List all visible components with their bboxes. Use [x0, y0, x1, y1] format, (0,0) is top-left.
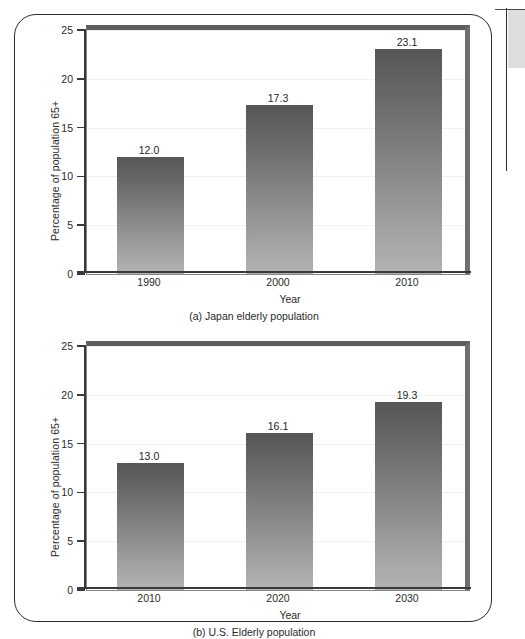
bar: [117, 157, 184, 274]
bar: [375, 402, 442, 590]
x-axis-title-b: Year: [51, 609, 525, 621]
y-axis-tick-mark: [77, 224, 85, 226]
bar: [117, 463, 184, 590]
y-axis-tick-label: 25: [33, 341, 73, 352]
x-axis-line-b: [77, 587, 471, 589]
x-axis-tick-label: 2000: [248, 277, 308, 288]
bar-value-label: 16.1: [248, 421, 308, 432]
y-axis-tick-mark: [77, 492, 85, 494]
y-axis-tick-mark: [77, 78, 85, 80]
bar: [375, 49, 442, 274]
x-axis-tick-label: 2030: [377, 593, 437, 604]
plot-frame-b: [86, 341, 470, 591]
y-axis-tick-mark: [77, 540, 85, 542]
y-axis-tick-mark: [77, 127, 85, 129]
bar: [246, 433, 313, 590]
page-edge-vertical-rule: [506, 8, 507, 171]
y-axis-tick-label: 20: [33, 74, 73, 85]
x-axis-tick-label: 2010: [377, 277, 437, 288]
bar-value-label: 17.3: [248, 93, 308, 104]
y-axis-line-a: [84, 29, 86, 271]
figure-card: 0510152025 Percentage of population 65+ …: [14, 14, 492, 622]
y-axis-tick-label: 20: [33, 390, 73, 401]
y-axis-tick-mark: [77, 29, 85, 31]
page-edge-grey-block: [508, 10, 525, 68]
y-axis-tick-mark: [77, 394, 85, 396]
y-axis-tick-label: 0: [33, 269, 73, 280]
y-axis-tick-mark: [77, 443, 85, 445]
plot-area-b: [87, 346, 465, 590]
y-axis-title-a: Percentage of population 65+: [49, 101, 61, 241]
gridline: [87, 30, 465, 31]
figure-us-elderly-population: 0510152025 Percentage of population 65+ …: [15, 323, 493, 623]
y-axis-tick-mark: [77, 589, 85, 591]
x-axis-tick-label: 2010: [119, 593, 179, 604]
y-axis-tick-mark: [77, 273, 85, 275]
x-axis-tick-label: 2020: [248, 593, 308, 604]
y-axis-tick-mark: [77, 176, 85, 178]
bar-value-label: 12.0: [119, 145, 179, 156]
bar-value-label: 23.1: [377, 37, 437, 48]
y-axis-tick-label: 25: [33, 25, 73, 36]
y-axis-tick-mark: [77, 345, 85, 347]
y-axis-title-b: Percentage of population 65+: [49, 417, 61, 557]
x-axis-title-a: Year: [51, 293, 525, 305]
figure-japan-elderly-population: 0510152025 Percentage of population 65+ …: [15, 15, 493, 323]
figure-caption-a: (a) Japan elderly population: [15, 310, 493, 322]
y-axis-line-b: [84, 345, 86, 587]
bar-value-label: 19.3: [377, 390, 437, 401]
x-axis-line-a: [77, 271, 471, 273]
gridline: [87, 346, 465, 347]
bar: [246, 105, 313, 274]
x-axis-tick-label: 1990: [119, 277, 179, 288]
y-axis-tick-label: 0: [33, 585, 73, 596]
bar-value-label: 13.0: [119, 451, 179, 462]
figure-caption-b: (b) U.S. Elderly population: [15, 626, 493, 638]
